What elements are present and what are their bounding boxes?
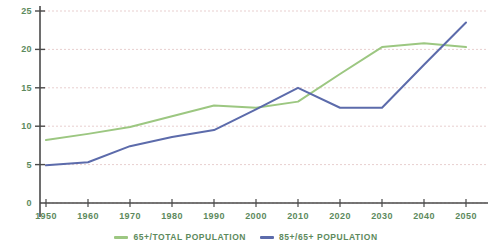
chart-axes [40, 6, 488, 217]
legend-label-1: 85+/65+ Population [279, 232, 378, 242]
legend-entry-1[interactable]: 85+/65+ Population [260, 232, 378, 242]
x-tick-label-1950: 1950 [26, 211, 66, 221]
x-tick-label-1970: 1970 [110, 211, 150, 221]
y-tick-label-10: 10 [6, 121, 32, 131]
x-tick-label-1980: 1980 [152, 211, 192, 221]
x-tick-label-2010: 2010 [278, 211, 318, 221]
legend-swatch-icon-1 [260, 236, 274, 239]
chart-legend: 65+/Total Population85+/65+ Population [0, 232, 492, 242]
x-tick-label-2030: 2030 [362, 211, 402, 221]
x-tick-label-2020: 2020 [320, 211, 360, 221]
line-chart: 0510152025 19501960197019801990200020102… [0, 0, 492, 250]
legend-swatch-icon-0 [114, 236, 128, 239]
x-tick-label-2000: 2000 [236, 211, 276, 221]
y-tick-label-15: 15 [6, 83, 32, 93]
x-tick-label-2050: 2050 [446, 211, 486, 221]
x-tick-label-2040: 2040 [404, 211, 444, 221]
y-tick-label-0: 0 [6, 198, 32, 208]
y-tick-label-5: 5 [6, 160, 32, 170]
x-tick-label-1960: 1960 [68, 211, 108, 221]
legend-label-0: 65+/Total Population [133, 232, 246, 242]
series-line-0 [46, 43, 466, 140]
x-tick-label-1990: 1990 [194, 211, 234, 221]
data-series-lines [46, 23, 466, 166]
legend-entry-0[interactable]: 65+/Total Population [114, 232, 246, 242]
series-line-1 [46, 23, 466, 166]
y-tick-label-25: 25 [6, 6, 32, 16]
y-tick-label-20: 20 [6, 44, 32, 54]
